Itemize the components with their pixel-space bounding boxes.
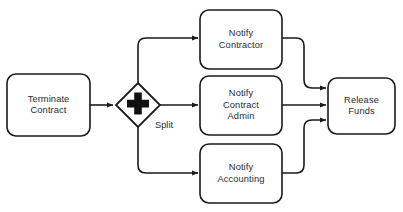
diagram-vector-layer — [0, 0, 403, 212]
gateway-shape-parallel-split[interactable] — [116, 83, 160, 127]
gateway-label-split: Split — [155, 120, 173, 131]
diagram-canvas: Terminate Contract Notify Contractor Not… — [0, 0, 403, 212]
cropped-caption-strip — [0, 203, 403, 212]
edge-accounting-to-release — [282, 120, 326, 173]
edge-contractor-to-release — [282, 38, 326, 88]
task-shape-notify-contractor[interactable] — [200, 10, 282, 69]
task-shape-notify-accounting[interactable] — [200, 144, 282, 203]
task-shape-notify-contract-admin[interactable] — [200, 76, 282, 135]
task-shape-release-funds[interactable] — [328, 78, 395, 134]
task-shape-terminate-contract[interactable] — [7, 74, 90, 136]
edge-gateway-to-contractor — [138, 38, 198, 83]
edge-gateway-to-accounting — [138, 127, 198, 173]
